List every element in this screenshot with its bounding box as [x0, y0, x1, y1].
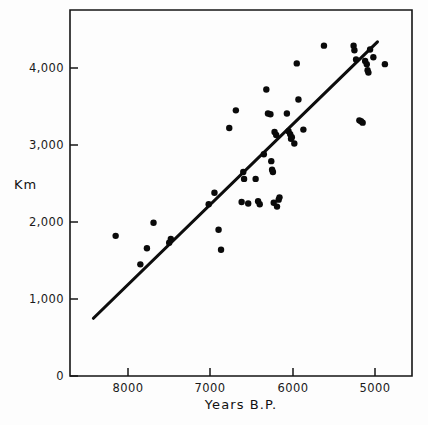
data-point [226, 125, 232, 131]
data-point [351, 47, 357, 53]
y-axis-tick-labels: 0 1,000 2,000 3,000 4,000 [29, 61, 64, 383]
data-point [382, 61, 388, 67]
data-point [273, 132, 279, 138]
data-point [166, 240, 172, 246]
data-point [365, 69, 371, 75]
plot-canvas: 0 1,000 2,000 3,000 4,000 Km 8000 7000 6… [0, 0, 428, 425]
data-point [359, 119, 365, 125]
data-point [263, 86, 269, 92]
data-point [300, 126, 306, 132]
data-points-layer [112, 42, 388, 267]
data-point [268, 158, 274, 164]
y-tick-label-4000: 4,000 [29, 61, 64, 75]
data-point [364, 61, 370, 67]
x-tick-label-8000: 8000 [113, 381, 144, 395]
x-axis-ticks [128, 368, 375, 376]
data-point [257, 201, 263, 207]
data-point [353, 56, 359, 62]
trend-line [93, 42, 377, 318]
data-point [238, 199, 244, 205]
y-tick-label-3000: 3,000 [29, 138, 64, 152]
data-point [150, 220, 156, 226]
data-point [112, 233, 118, 239]
data-point [284, 110, 290, 116]
data-point [205, 201, 211, 207]
data-point [211, 190, 217, 196]
x-axis-tick-labels: 8000 7000 6000 5000 [113, 381, 391, 395]
data-point [137, 261, 143, 267]
data-point [274, 203, 280, 209]
data-point [245, 200, 251, 206]
data-point [321, 42, 327, 48]
y-axis-title: Km [14, 177, 37, 192]
data-point [144, 245, 150, 251]
data-point [270, 169, 276, 175]
data-point [289, 134, 295, 140]
data-point [370, 54, 376, 60]
axis-frame [70, 10, 412, 376]
data-point [294, 60, 300, 66]
x-tick-label-7000: 7000 [195, 381, 226, 395]
y-axis-ticks [70, 68, 78, 376]
data-point [233, 107, 239, 113]
x-axis-title: Years B.P. [204, 397, 277, 412]
y-tick-label-1000: 1,000 [29, 292, 64, 306]
data-point [215, 227, 221, 233]
data-point [261, 151, 267, 157]
y-tick-label-2000: 2,000 [29, 215, 64, 229]
y-tick-label-0: 0 [56, 369, 64, 383]
scatter-plot-figure: 0 1,000 2,000 3,000 4,000 Km 8000 7000 6… [0, 0, 428, 425]
data-point [276, 194, 282, 200]
x-tick-label-6000: 6000 [278, 381, 309, 395]
regression-line [93, 42, 377, 318]
data-point [252, 176, 258, 182]
data-point [240, 169, 246, 175]
data-point [241, 176, 247, 182]
data-point [267, 111, 273, 117]
data-point [218, 247, 224, 253]
x-tick-label-5000: 5000 [360, 381, 391, 395]
data-point [367, 46, 373, 52]
data-point [291, 140, 297, 146]
data-point [295, 96, 301, 102]
